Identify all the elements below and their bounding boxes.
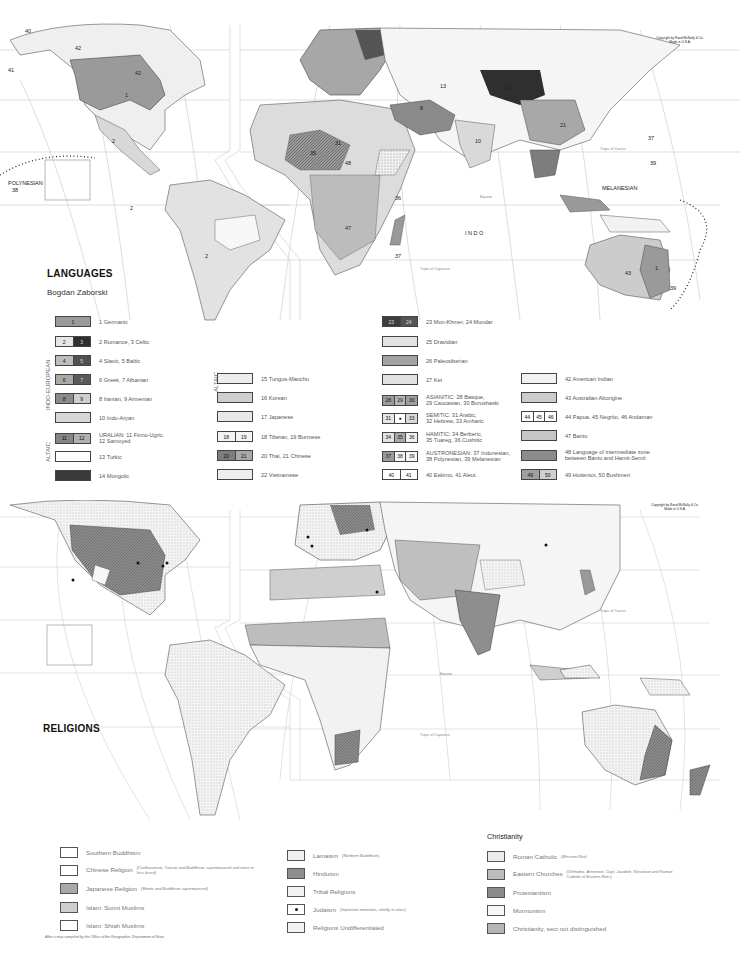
legend-label-text: Mormonism [513,907,545,914]
svg-text:MELANESIAN: MELANESIAN [602,185,637,191]
legend-swatch [382,336,418,347]
swatch-cell [383,337,417,346]
legend-label: ASIANITIC: 28 Basque, 29 Caucasian, 30 B… [426,394,499,406]
legend-swatch [60,883,78,894]
religion-legend-item: Hinduism [287,868,339,879]
legend-label: Chinese Religion(Confucianism, Taoism an… [86,866,257,875]
swatch-cell: 31 [383,414,395,423]
legend-swatch [487,869,505,880]
copyright-line: Made in U.S.A. [645,507,705,511]
legend-label: HAMITIC: 34 Berberic, 35 Tuareg, 36 Cush… [426,431,482,443]
languages-title: LANGUAGES [47,268,113,279]
legend-label: 1 Germanic [99,319,128,325]
swatch-cell: 4 [56,356,74,365]
legend-swatch [521,450,557,461]
languages-map: 40414242 1222 POLYNESIAN38 MELANESIAN393… [0,0,754,330]
svg-text:37: 37 [395,253,401,259]
svg-text:Tropic of Capricorn: Tropic of Capricorn [420,267,450,271]
legend-swatch: 31●33 [382,413,418,424]
legend-swatch [60,847,78,858]
religions-map: Tropic of CancerEquatorTropic of Caprico… [0,500,754,830]
legend-swatch [487,851,505,862]
legend-label-text: Christianity, sect not distinguished [513,925,606,932]
language-legend-item: 47 Bantu [521,430,587,441]
language-legend-item: 48 Language of intermediate zone between… [521,449,650,461]
legend-label: 14 Mongolic [99,473,129,479]
svg-text:21: 21 [560,122,566,128]
legend-swatch: 1112 [55,433,91,444]
svg-text:1: 1 [655,265,658,271]
swatch-cell: 38 [395,452,407,461]
language-legend-item: 1112URALIAN: 11 Finno-Ugric, 12 Samoyed [55,432,164,444]
legend-note: (Northern Buddhism) [342,854,379,859]
legend-label: 47 Bantu [565,433,587,439]
language-legend-item: 232 Romance, 3 Celtic [55,336,149,347]
legend-label: Protestantism [513,889,551,896]
swatch-cell: 33 [406,414,417,423]
language-legend-item: 27 Ket [382,374,442,385]
svg-text:36: 36 [395,195,401,201]
religions-title: RELIGIONS [43,723,100,734]
legend-label-text: Lamaism [313,852,338,859]
swatch-cell: 20 [218,451,236,460]
swatch-cell: 18 [218,432,236,441]
swatch-cell: 21 [236,451,253,460]
legend-note: (Orthodox, Armenian, Copt, Jacobite, Nes… [567,870,687,879]
legend-swatch [55,412,91,423]
legend-swatch [55,470,91,481]
language-legend-item: 16 Korean [217,392,287,403]
language-legend-item: 25 Dravidian [382,336,457,347]
christianity-legend-item: Roman Catholic(Western Rite) [487,851,587,862]
swatch-cell [522,393,556,402]
swatch-cell: 7 [74,375,91,384]
source-footnote: After a map compiled by the Office of th… [45,935,164,939]
swatch-cell [218,374,252,383]
swatch-cell [522,451,556,460]
legend-swatch: 4041 [382,469,418,480]
swatch-cell: 5 [74,356,91,365]
swatch-cell: 36 [406,433,417,442]
swatch-cell [218,412,252,421]
legend-label-text: Judaism [313,906,336,913]
svg-text:13: 13 [440,83,446,89]
legend-label: Christianity, sect not distinguished [513,925,606,932]
swatch-cell: ● [395,414,407,423]
legend-label-text: Southern Buddhism [86,849,140,856]
svg-text:I N D O: I N D O [465,230,484,236]
swatch-cell: 46 [545,412,556,421]
legend-label: Japanese Religion(Shinto and Buddhism su… [86,885,208,892]
swatch-cell [218,470,252,479]
legend-swatch [287,922,305,933]
svg-text:38: 38 [12,187,18,193]
legend-swatch [521,373,557,384]
religions-copyright: Copyright by Rand McNally & Co. Made in … [645,503,705,511]
legend-label-text: Islam: Sunni Muslims [86,904,144,911]
copyright-line: Made in U.S.A. [650,40,710,44]
legend-label: Judaism(Important minorities, chiefly in… [313,906,406,913]
svg-text:37: 37 [648,135,654,141]
swatch-cell [383,356,417,365]
altaic-group-label: ALTAIC [45,442,51,462]
legend-label: Eastern Churches(Orthodox, Armenian, Cop… [513,870,687,879]
svg-text:Equator: Equator [440,672,453,676]
legend-label-text: Tribal Religions [313,888,355,895]
religion-legend-item: Judaism(Important minorities, chiefly in… [287,904,406,915]
legend-swatch [60,920,78,931]
legend-swatch: 4950 [521,469,557,480]
svg-text:40: 40 [25,28,31,34]
swatch-cell: 34 [383,433,395,442]
legend-swatch [287,904,305,915]
svg-text:Tropic of Cancer: Tropic of Cancer [600,147,627,151]
language-legend-item: 282930ASIANITIC: 28 Basque, 29 Caucasian… [382,394,499,406]
language-legend-item: 181918 Tibetan, 19 Burmese [217,431,320,442]
legend-swatch [287,850,305,861]
language-legend-item: 13 Turkic [55,451,122,462]
legend-swatch: 1819 [217,431,253,442]
legend-label: 20 Thai, 21 Chinese [261,453,311,459]
swatch-cell: 30 [406,396,417,405]
svg-text:2: 2 [112,138,115,144]
swatch-cell: 19 [236,432,253,441]
language-legend-item: 43 Australian Aborigine [521,392,622,403]
legend-swatch [487,887,505,898]
language-legend-item: 26 Paleosiberian [382,355,468,366]
